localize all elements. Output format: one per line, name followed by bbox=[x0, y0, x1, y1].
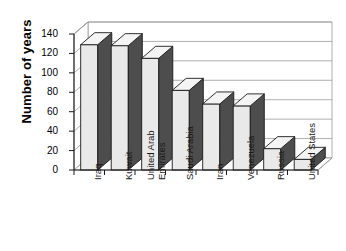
x-axis-category-label: Saudi Arabia bbox=[185, 126, 196, 180]
x-axis-category-label-line1: United Arab bbox=[145, 130, 156, 180]
x-axis-category-label: Iran bbox=[215, 164, 226, 180]
x-axis-category-label-line1: Iran bbox=[214, 164, 225, 180]
x-axis-category-labels: IraqKuwaitUnited ArabEmiratesSaudi Arabi… bbox=[0, 0, 346, 251]
x-axis-category-label: United ArabEmirates bbox=[146, 130, 167, 180]
bar-chart: Number of years 020406080100120140 IraqK… bbox=[0, 0, 346, 251]
x-axis-category-label-line1: Russia bbox=[275, 151, 286, 180]
x-axis-category-label-line1: Venezuela bbox=[245, 136, 256, 180]
x-axis-category-label-line1: United States bbox=[306, 123, 317, 180]
x-axis-category-label: Venezuela bbox=[246, 136, 257, 180]
x-axis-category-label: Russia bbox=[276, 151, 287, 180]
x-axis-category-label-line2: Emirates bbox=[157, 130, 168, 180]
x-axis-category-label-line1: Iraq bbox=[92, 164, 103, 180]
x-axis-category-label: Kuwait bbox=[124, 151, 135, 180]
x-axis-category-label: Iraq bbox=[93, 164, 104, 180]
x-axis-category-label-line1: Kuwait bbox=[123, 151, 134, 180]
x-axis-category-label-line1: Saudi Arabia bbox=[184, 126, 195, 180]
x-axis-category-label: United States bbox=[307, 123, 318, 180]
